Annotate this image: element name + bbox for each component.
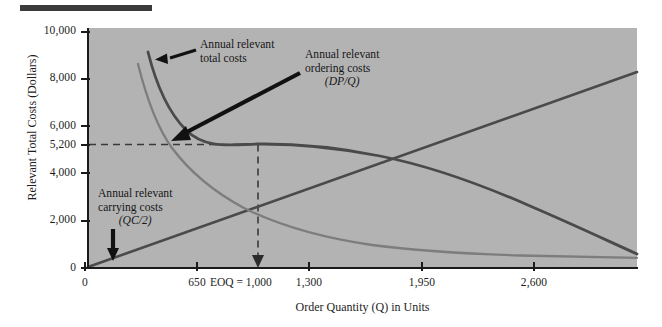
x-tick-label-1950: 1,950 [397,276,447,288]
y-tick-10000 [81,31,90,33]
x-axis-title-text: Order Quantity ( [296,300,376,314]
y-tick-2000 [81,220,90,222]
annotation-ordering-costs-line2: ordering costs [305,62,379,76]
annotation-total-costs-line2: total costs [200,52,274,66]
annotation-carrying-costs-line2: carrying costs [98,201,172,215]
annotation-ordering-costs: Annual relevant ordering costs (DP/Q) [305,48,379,89]
x-axis-line [87,267,638,269]
y-tick-4000 [81,172,90,174]
x-tick-1300 [308,262,310,271]
y-tick-6000 [81,125,90,127]
annotation-total-costs: Annual relevant total costs [200,38,274,65]
annotation-ordering-costs-formula: (DP/Q) [305,75,379,89]
eoq-cost-chart-figure: 10,000 8,000 6,000 5,200 4,000 2,000 0 R… [0,0,662,327]
x-tick-650 [196,262,198,271]
annotation-carrying-costs-line1: Annual relevant [98,187,172,201]
y-axis-line [87,28,89,269]
x-tick-label-1300: 1,300 [284,276,334,288]
annotation-carrying-costs-formula: (QC/2) [98,214,172,228]
x-tick-1950 [421,262,423,271]
eoq-annotation-label: EOQ = 1,000 [210,276,272,288]
x-axis-title-text-2: ) in Units [384,300,429,314]
x-tick-label-2600: 2,600 [509,276,559,288]
annotation-total-costs-line1: Annual relevant [200,38,274,52]
x-axis-title: Order Quantity (Q) in Units [88,300,637,315]
x-tick-label-0: 0 [60,276,110,288]
decorative-rule [20,5,152,11]
y-axis-title: Relevant Total Costs (Dollars) [25,33,40,223]
x-tick-2600 [533,262,535,271]
y-tick-5200 [81,144,90,146]
x-tick-0 [84,262,86,271]
annotation-ordering-costs-line1: Annual relevant [305,48,379,62]
annotation-carrying-costs: Annual relevant carrying costs (QC/2) [98,187,172,228]
x-axis-title-variable: Q [375,300,384,314]
y-tick-label-0: 0 [0,261,76,273]
y-tick-8000 [81,78,90,80]
